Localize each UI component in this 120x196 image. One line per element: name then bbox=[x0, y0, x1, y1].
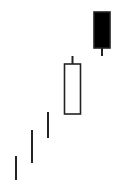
candle-bullish bbox=[65, 56, 81, 114]
candlestick-chart bbox=[0, 0, 120, 196]
candle-body bbox=[94, 12, 110, 48]
candle-bearish bbox=[94, 12, 110, 56]
candle-body bbox=[65, 64, 81, 114]
